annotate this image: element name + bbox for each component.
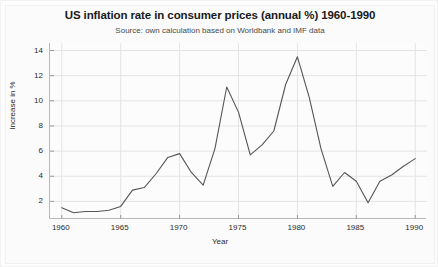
y-axis-tick-label: 6 xyxy=(19,146,43,155)
plot-area xyxy=(49,43,426,219)
y-axis-tick-label: 8 xyxy=(19,121,43,130)
x-axis-tick-label: 1975 xyxy=(218,223,258,232)
y-axis-tick-label: 12 xyxy=(19,71,43,80)
chart-subtitle: Source: own calculation based on Worldba… xyxy=(1,26,438,35)
y-axis-tick-label: 2 xyxy=(19,196,43,205)
chart-frame: US inflation rate in consumer prices (an… xyxy=(0,0,438,267)
y-axis-tick-label: 4 xyxy=(19,171,43,180)
y-axis-tick-label: 14 xyxy=(19,46,43,55)
x-axis-tick-label: 1960 xyxy=(41,223,81,232)
chart-title: US inflation rate in consumer prices (an… xyxy=(1,9,438,21)
x-axis-tick-label: 1970 xyxy=(159,223,199,232)
x-axis-tick-label: 1980 xyxy=(276,223,316,232)
line-chart-svg xyxy=(50,43,427,219)
x-axis-title: Year xyxy=(1,237,438,246)
x-axis-tick-label: 1965 xyxy=(100,223,140,232)
x-axis-tick-label: 1990 xyxy=(394,223,434,232)
x-axis-tick-label: 1985 xyxy=(335,223,375,232)
y-axis-tick-label: 10 xyxy=(19,96,43,105)
y-axis-title: Increase in % xyxy=(8,51,17,161)
